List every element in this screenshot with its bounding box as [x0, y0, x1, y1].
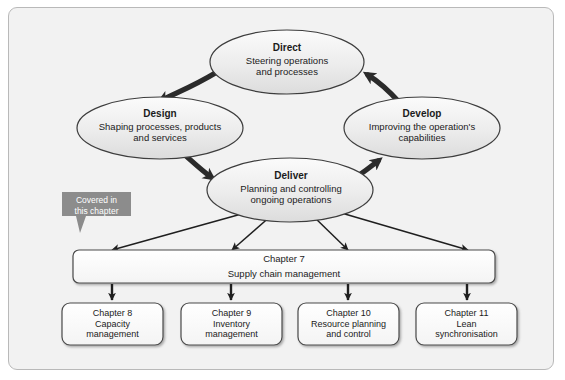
- covered-in-this-chapter-callout: [62, 192, 131, 233]
- chapter7-box: [73, 250, 495, 283]
- chapter-box-0: [62, 303, 163, 345]
- diagram-graphics: [0, 0, 565, 380]
- cycle-node-deliver: [207, 158, 373, 222]
- cycle-node-direct: [210, 30, 364, 94]
- arrows-chapter7-to-chapters: [112, 284, 467, 300]
- chapter-box-2: [298, 303, 399, 345]
- cycle-arrow-direct-to-design: [162, 72, 217, 100]
- cycle-node-design: [77, 97, 243, 159]
- diagram-figure: Direct Steering operations and processes…: [0, 0, 565, 380]
- cycle-node-develop: [344, 97, 500, 159]
- chapter-box-3: [416, 303, 517, 345]
- chapter-box-1: [181, 303, 282, 345]
